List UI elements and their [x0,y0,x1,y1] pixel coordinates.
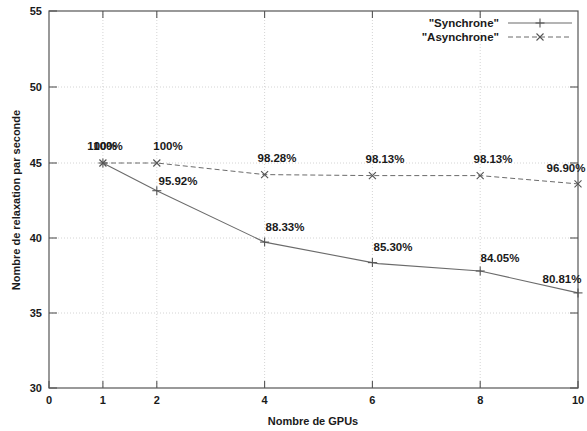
synchrone-marker-x8 [476,267,485,276]
y-tick-label-45: 45 [30,157,42,169]
plot-border [49,11,578,388]
x-axis-ticks [49,11,578,388]
legend-entry-asynchrone[interactable]: "Asynchrone" [422,31,572,43]
sync-label-2: 95.92% [158,175,197,187]
legend-label-asynchrone: "Asynchrone" [422,31,499,43]
chart-page: 30 35 40 45 50 55 0 1 2 4 6 8 10 Nombre … [0,0,587,431]
y-axis-title: Nombre de relaxation par seconde [10,110,22,290]
plot-frame [49,11,578,388]
legend-marker-synchrone-plus-icon [536,19,545,28]
x-tick-label-0: 0 [46,394,52,406]
async-label-6: 98.13% [365,153,404,165]
async-label-4: 98.28% [257,152,296,164]
synchrone-marker-x2 [152,186,161,195]
y-axis-ticks [49,11,578,388]
x-axis-tick-labels: 0 1 2 4 6 8 10 [46,394,584,406]
y-tick-label-40: 40 [30,232,42,244]
synchrone-marker-x4 [260,238,269,247]
async-label-8: 98.13% [473,153,512,165]
sync-label-4: 88.33% [265,221,304,233]
x-tick-label-1: 1 [100,394,106,406]
legend-entry-synchrone[interactable]: "Synchrone" [429,17,572,29]
y-axis-tick-labels: 30 35 40 45 50 55 [30,5,42,394]
x-tick-label-10: 10 [572,394,584,406]
y-tick-label-35: 35 [30,307,42,319]
sync-label-8: 84.05% [480,252,519,264]
relaxation-per-second-line-chart: 30 35 40 45 50 55 0 1 2 4 6 8 10 Nombre … [0,0,587,431]
x-tick-label-6: 6 [369,394,375,406]
horizontal-gridlines [49,87,578,313]
y-tick-label-55: 55 [30,5,42,17]
y-tick-label-30: 30 [30,382,42,394]
sync-label-10: 80.81% [542,273,581,285]
synchrone-marker-x10 [574,288,583,297]
x-tick-label-2: 2 [154,394,160,406]
legend-label-synchrone: "Synchrone" [429,17,499,29]
x-tick-label-4: 4 [262,394,269,406]
async-label-2: 100% [153,140,182,152]
asynchrone-data-labels: 100% 100% 98.28% 98.13% 98.13% 96.90% [93,140,585,174]
x-tick-label-8: 8 [477,394,483,406]
async-label-1: 100% [93,140,122,152]
vertical-gridlines [103,11,480,388]
synchrone-marker-x6 [368,258,377,267]
chart-legend: "Synchrone" "Asynchrone" [422,17,572,43]
async-label-10: 96.90% [546,162,585,174]
sync-label-6: 85.30% [373,241,412,253]
x-axis-title: Nombre de GPUs [268,415,358,427]
y-tick-label-50: 50 [30,81,42,93]
